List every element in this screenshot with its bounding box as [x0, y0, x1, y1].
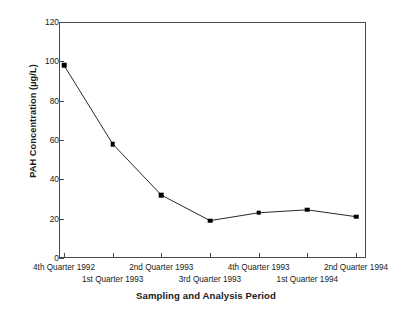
x-axis-tick-label: 4th Quarter 1992 [33, 263, 95, 272]
y-axis-tick-label: 120 [19, 17, 59, 27]
plot-area-frame [59, 22, 366, 258]
x-axis-tick-label: 1st Quarter 1993 [82, 275, 143, 284]
y-axis-tick-label: 20 [19, 214, 59, 224]
y-axis-tick-label: 100 [19, 56, 59, 66]
x-axis-tick-label: 3rd Quarter 1993 [179, 275, 241, 284]
x-axis-tick-label: 2nd Quarter 1993 [129, 263, 193, 272]
y-axis-tick-mark [59, 101, 64, 102]
y-axis-tick-mark [59, 61, 64, 62]
x-axis-tick-label: 2nd Quarter 1994 [324, 263, 388, 272]
x-axis-tick-mark [259, 253, 260, 258]
y-axis-tick-mark [59, 179, 64, 180]
y-axis-tick-mark [59, 22, 64, 23]
x-axis-tick-mark [307, 253, 308, 258]
y-axis-tick-label: 80 [19, 96, 59, 106]
pah-concentration-line-chart: PAH Concentration (µg/L) 020406080100120… [0, 0, 412, 313]
x-axis-tick-mark [210, 253, 211, 258]
x-axis-tick-mark [113, 253, 114, 258]
y-axis-tick-mark [59, 219, 64, 220]
y-axis-tick-label: 0 [19, 253, 59, 263]
y-axis-tick-label: 60 [19, 135, 59, 145]
x-axis-tick-mark [356, 253, 357, 258]
y-axis-tick-label: 40 [19, 174, 59, 184]
y-axis-tick-mark [59, 140, 64, 141]
x-axis-tick-label: 4th Quarter 1993 [228, 263, 290, 272]
x-axis-title: Sampling and Analysis Period [0, 290, 412, 301]
x-axis-tick-label: 1st Quarter 1994 [277, 275, 338, 284]
x-axis-tick-mark [161, 253, 162, 258]
x-axis-tick-mark [64, 253, 65, 258]
y-axis-tick-mark [59, 258, 64, 259]
